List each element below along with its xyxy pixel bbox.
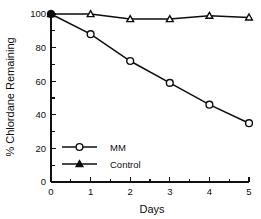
circle-marker (48, 11, 55, 18)
x-axis-tick-labels: 0 1 2 3 4 5 (48, 186, 251, 197)
legend-label-mm: MM (110, 142, 126, 153)
y-tick-label: 80 (35, 42, 46, 53)
y-tick-label: 20 (35, 143, 46, 154)
x-tick-label: 2 (128, 186, 133, 197)
triangle-marker (76, 161, 83, 167)
series-control (48, 11, 253, 22)
x-tick-label: 1 (88, 186, 93, 197)
chart-container: 0 20 40 60 80 100 0 1 2 (0, 0, 261, 219)
triangle-marker (166, 16, 173, 22)
x-tick-label: 0 (48, 186, 53, 197)
y-tick-label: 100 (30, 8, 46, 19)
series-mm (48, 11, 253, 127)
y-tick-label: 0 (41, 176, 46, 187)
triangle-marker (206, 12, 213, 18)
circle-marker (206, 101, 213, 108)
series-mm-line (51, 14, 249, 123)
circle-marker (166, 80, 173, 87)
legend-entry-mm[interactable]: MM (62, 142, 126, 153)
triangle-marker (87, 11, 94, 17)
chart-legend: MM Control (62, 142, 141, 170)
x-tick-label: 3 (167, 186, 172, 197)
series-control-line (51, 14, 249, 19)
circle-marker (246, 120, 253, 127)
y-tick-label: 60 (35, 76, 46, 87)
y-axis-title: % Chlordane Remaining (4, 37, 16, 156)
circle-marker (127, 58, 134, 65)
triangle-marker (246, 14, 253, 20)
legend-entry-control[interactable]: Control (62, 159, 141, 170)
line-chart: 0 20 40 60 80 100 0 1 2 (0, 0, 261, 219)
x-tick-label: 5 (246, 186, 251, 197)
y-axis-tick-labels: 0 20 40 60 80 100 (30, 8, 46, 187)
legend-label-control: Control (110, 159, 141, 170)
y-tick-label: 40 (35, 109, 46, 120)
x-axis-title: Days (139, 203, 165, 215)
x-tick-label: 4 (207, 186, 212, 197)
circle-marker (87, 31, 94, 38)
triangle-marker (127, 16, 134, 22)
circle-marker (76, 144, 83, 151)
